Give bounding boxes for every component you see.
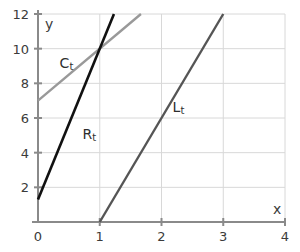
x-tick-label: 2 (152, 230, 172, 243)
y-tick-label: 2 (5, 181, 29, 194)
x-tick-label: 3 (213, 230, 233, 243)
y-axis-label: y (45, 17, 53, 31)
y-tick-label: 10 (5, 43, 29, 56)
y-tick-label: 12 (5, 8, 29, 21)
chart-plot-area (0, 0, 300, 252)
series-label-ct: Ct (60, 56, 74, 70)
y-tick-label: 8 (5, 77, 29, 90)
y-tick-label: 6 (5, 112, 29, 125)
x-tick-label: 1 (90, 230, 110, 243)
x-tick-label: 4 (275, 230, 295, 243)
y-tick-label: 4 (5, 147, 29, 160)
x-axis-label: x (273, 202, 281, 216)
series-label-rt: Rt (82, 127, 96, 141)
series-label-lt: Lt (173, 100, 185, 114)
series-line-ct (38, 14, 141, 101)
chart-container: 24681012 01234 y x CtRtLt (0, 0, 300, 252)
x-tick-label: 0 (28, 230, 48, 243)
series-line-rt (38, 14, 114, 199)
axis-lines (32, 10, 285, 222)
